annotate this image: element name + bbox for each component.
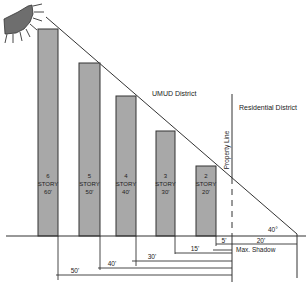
building-2-word: STORY: [196, 181, 216, 187]
building-5-story: [79, 63, 100, 236]
residential-district-label: Residential District: [239, 104, 297, 111]
max-shadow-label: Max. Shadow: [236, 246, 276, 253]
setback-5ft-label: 5': [222, 237, 227, 244]
building-3-height: 30': [162, 189, 170, 195]
shadow-20ft-label: 20': [257, 237, 265, 244]
umud-district-label: UMUD District: [152, 90, 196, 97]
property-line-label: Property Line: [223, 130, 231, 169]
building-4-word: STORY: [116, 181, 136, 187]
setback-30ft-label: 30': [148, 253, 156, 260]
diagram-canvas: 6 STORY 60' 5 STORY 50' 4 STORY 40' 3 ST…: [0, 0, 308, 285]
shadow-diagram: 6 STORY 60' 5 STORY 50' 4 STORY 40' 3 ST…: [0, 0, 308, 285]
building-6-word: STORY: [38, 181, 58, 187]
building-6-height: 60': [44, 189, 52, 195]
setback-40ft-label: 40': [108, 260, 116, 267]
building-5-word: STORY: [79, 181, 99, 187]
angle-label: 40°: [268, 226, 278, 233]
building-4-story: [116, 96, 136, 236]
building-3-word: STORY: [155, 181, 175, 187]
building-5-height: 50': [86, 189, 94, 195]
building-4-height: 40': [122, 189, 130, 195]
building-6-story: [38, 29, 58, 236]
setback-15ft-label: 15': [191, 245, 199, 252]
setback-50ft-label: 50': [71, 267, 79, 274]
building-2-height: 20': [202, 189, 210, 195]
